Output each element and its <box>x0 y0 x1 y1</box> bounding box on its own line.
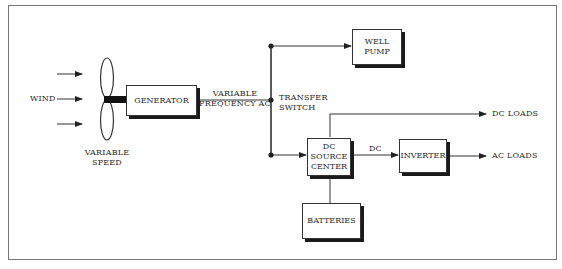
turbine-shaft-icon <box>104 96 127 103</box>
well-pump-line1: WELL <box>364 37 390 47</box>
ac-loads-label: AC LOADS <box>492 151 538 161</box>
dc-source-center-box: DC SOURCE CENTER <box>307 138 351 176</box>
vfac-line2: FREQUENCY AC <box>199 99 271 109</box>
variable-speed-line2: SPEED <box>82 158 132 168</box>
wind-label: WIND <box>30 94 56 104</box>
vfac-line1: VARIABLE <box>199 89 271 99</box>
generator-box: GENERATOR <box>126 85 197 116</box>
turbine-blade-bottom-icon <box>101 100 114 140</box>
variable-speed-line1: VARIABLE <box>82 148 132 158</box>
well-pump-line2: PUMP <box>364 47 390 57</box>
inverter-label: INVERTER <box>401 151 446 161</box>
batteries-box: BATTERIES <box>302 203 361 239</box>
dc-edge-label: DC <box>369 144 382 154</box>
dc-source-center-line3: CENTER <box>311 162 348 172</box>
variable-frequency-ac-label: VARIABLE FREQUENCY AC <box>199 89 271 109</box>
transfer-switch-label: TRANSFER SWITCH <box>279 93 328 113</box>
well-pump-box: WELL PUMP <box>352 29 402 65</box>
batteries-label: BATTERIES <box>307 216 355 226</box>
transfer-switch-line2: SWITCH <box>279 103 328 113</box>
variable-speed-label: VARIABLE SPEED <box>82 148 132 168</box>
inverter-box: INVERTER <box>399 139 447 173</box>
dc-loads-label: DC LOADS <box>492 109 538 119</box>
transfer-switch-line1: TRANSFER <box>279 93 328 103</box>
dc-source-center-line1: DC <box>311 142 348 152</box>
generator-label: GENERATOR <box>134 96 188 106</box>
dc-source-center-line2: SOURCE <box>311 152 348 162</box>
turbine-blade-top-icon <box>101 58 114 98</box>
connector-lines <box>0 0 562 269</box>
